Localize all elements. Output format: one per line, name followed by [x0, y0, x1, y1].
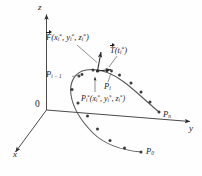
space-curve	[71, 70, 159, 152]
sample-point-coords: (xi*, yi*, zi*)	[90, 94, 125, 103]
field-label-leader	[77, 45, 97, 63]
tangent-vector-label: T(ti*)	[110, 46, 127, 56]
tangent-label-leader	[109, 56, 117, 67]
point-index: i	[109, 85, 111, 91]
curve-point-prev-label: Pi − 1	[46, 70, 62, 80]
origin-label: 0	[35, 100, 40, 110]
field-vector-args: (xi*, yi*, zi*)	[51, 32, 89, 42]
diagram-canvas	[0, 0, 202, 176]
startpoint-index: 0	[151, 150, 154, 156]
tangent-vector-args: (ti*)	[115, 45, 127, 55]
curve-partition-dots	[71, 69, 161, 154]
curve-startpoint-label: P0	[146, 147, 154, 157]
axis-label-x: x	[13, 150, 17, 159]
axis-x	[16, 110, 47, 152]
field-vector-symbol: F	[46, 33, 51, 42]
axis-label-z: z	[38, 3, 42, 12]
field-vector-label: F(xi*, yi*, zi*)	[46, 33, 89, 43]
curve-endpoint-n-label: Pn	[163, 110, 171, 120]
endpoint-n-index: n	[168, 113, 171, 119]
sample-point-label: Pi*(xi*, yi*, zi*)	[81, 95, 125, 103]
field-vector	[98, 52, 102, 71]
axis-label-y: y	[189, 124, 193, 133]
figure-container: z y x 0 F(xi*, yi*, zi*) T(ti*) Pi − 1 P…	[0, 0, 202, 176]
tangent-vector-symbol: T	[110, 46, 115, 55]
prev-point-index: i − 1	[51, 73, 61, 79]
curve-point-label: Pi	[104, 82, 111, 92]
